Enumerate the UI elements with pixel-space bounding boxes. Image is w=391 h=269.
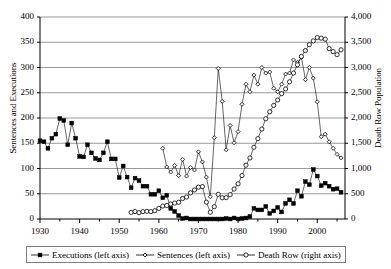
data-point-marker bbox=[188, 191, 192, 195]
data-point-marker bbox=[185, 174, 189, 178]
data-point-marker bbox=[315, 174, 319, 178]
data-point-marker bbox=[244, 216, 248, 220]
data-point-marker bbox=[212, 217, 216, 221]
legend-item-3[interactable]: Death Row (right axis) bbox=[237, 250, 341, 260]
data-point-marker bbox=[323, 37, 327, 41]
data-point-marker bbox=[339, 48, 343, 52]
data-point-marker bbox=[288, 71, 292, 75]
data-point-marker bbox=[204, 200, 208, 204]
data-point-marker bbox=[173, 163, 177, 167]
data-point-marker bbox=[212, 136, 216, 140]
legend-item-1[interactable]: Executions (left axis) bbox=[31, 250, 129, 260]
data-point-marker bbox=[331, 49, 335, 53]
data-point-marker bbox=[173, 201, 177, 205]
data-point-marker bbox=[98, 158, 102, 162]
data-point-marker bbox=[161, 204, 165, 208]
data-point-marker bbox=[240, 217, 244, 221]
data-point-marker bbox=[307, 43, 311, 47]
data-point-marker bbox=[303, 48, 307, 52]
data-point-marker bbox=[280, 82, 284, 86]
data-point-marker bbox=[256, 137, 260, 141]
data-point-marker bbox=[260, 66, 264, 70]
data-point-marker bbox=[208, 217, 212, 221]
data-point-marker bbox=[224, 196, 228, 200]
data-point-marker bbox=[42, 140, 46, 144]
data-point-marker bbox=[303, 180, 307, 184]
data-point-marker bbox=[264, 117, 268, 121]
data-point-marker bbox=[157, 189, 161, 193]
data-point-marker bbox=[252, 73, 256, 77]
data-point-marker bbox=[78, 154, 82, 158]
data-point-marker bbox=[177, 200, 181, 204]
data-point-marker bbox=[129, 186, 133, 190]
data-point-marker bbox=[268, 212, 272, 216]
data-point-marker bbox=[248, 156, 252, 160]
data-point-marker bbox=[173, 210, 177, 214]
data-point-marker bbox=[200, 160, 204, 164]
data-point-marker bbox=[260, 208, 264, 212]
data-point-marker bbox=[109, 157, 113, 161]
data-point-marker bbox=[280, 92, 284, 96]
data-point-marker bbox=[291, 71, 295, 75]
data-point-marker bbox=[193, 217, 197, 221]
data-point-marker bbox=[105, 140, 109, 144]
data-point-marker bbox=[157, 206, 161, 210]
data-point-marker bbox=[307, 183, 311, 187]
data-point-marker bbox=[204, 175, 208, 179]
data-point-marker bbox=[113, 157, 117, 161]
data-point-marker bbox=[292, 201, 296, 205]
data-point-marker bbox=[137, 211, 141, 215]
data-point-marker bbox=[189, 217, 193, 221]
data-point-marker bbox=[264, 204, 268, 208]
data-point-marker bbox=[319, 135, 323, 139]
data-point-marker bbox=[196, 185, 200, 189]
data-point-marker bbox=[256, 82, 260, 86]
data-point-marker bbox=[125, 175, 129, 179]
data-point-marker bbox=[284, 201, 288, 205]
data-point-marker bbox=[272, 103, 276, 107]
data-point-marker bbox=[201, 217, 205, 221]
data-point-marker bbox=[287, 80, 291, 84]
data-point-marker bbox=[280, 210, 284, 214]
data-point-marker bbox=[240, 102, 244, 106]
data-point-marker bbox=[133, 209, 137, 213]
data-point-marker bbox=[296, 189, 300, 193]
legend-marker-small-diamond-icon bbox=[136, 250, 154, 260]
data-point-marker bbox=[153, 209, 157, 213]
data-point-marker bbox=[181, 157, 185, 161]
data-point-marker bbox=[252, 145, 256, 149]
data-point-marker bbox=[303, 78, 307, 82]
data-point-marker bbox=[335, 187, 339, 191]
data-point-marker bbox=[94, 157, 98, 161]
data-point-marker bbox=[86, 143, 90, 147]
data-point-marker bbox=[244, 252, 248, 256]
data-point-marker bbox=[300, 194, 304, 198]
plot-area bbox=[0, 0, 391, 269]
series-3 bbox=[129, 35, 343, 214]
data-point-marker bbox=[315, 100, 319, 104]
data-point-marker bbox=[283, 87, 287, 91]
legend-marker-filled-square-icon bbox=[31, 250, 49, 260]
data-point-marker bbox=[307, 66, 311, 70]
data-point-marker bbox=[117, 176, 121, 180]
data-point-marker bbox=[216, 217, 220, 221]
data-point-marker bbox=[177, 174, 181, 178]
data-point-marker bbox=[145, 184, 149, 188]
data-point-marker bbox=[70, 121, 74, 125]
data-point-marker bbox=[284, 72, 288, 76]
data-point-marker bbox=[236, 130, 240, 134]
data-point-marker bbox=[276, 98, 280, 102]
data-point-marker bbox=[331, 146, 335, 150]
data-point-marker bbox=[256, 208, 260, 212]
data-point-marker bbox=[50, 136, 54, 140]
data-point-marker bbox=[165, 193, 169, 197]
data-point-marker bbox=[129, 210, 133, 214]
legend-label: Death Row (right axis) bbox=[258, 250, 341, 260]
data-point-marker bbox=[220, 99, 224, 103]
data-point-marker bbox=[62, 119, 66, 123]
data-point-marker bbox=[185, 216, 189, 220]
data-point-marker bbox=[38, 253, 42, 257]
data-point-marker bbox=[224, 217, 228, 221]
data-point-marker bbox=[299, 54, 303, 58]
legend-item-2[interactable]: Sentences (left axis) bbox=[136, 250, 230, 260]
